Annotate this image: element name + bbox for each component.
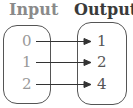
- arrowhead-icon: [84, 39, 91, 45]
- arrowhead-icon: [84, 82, 91, 88]
- arrowhead-icon: [84, 60, 91, 66]
- mapping-arrows: [0, 0, 133, 108]
